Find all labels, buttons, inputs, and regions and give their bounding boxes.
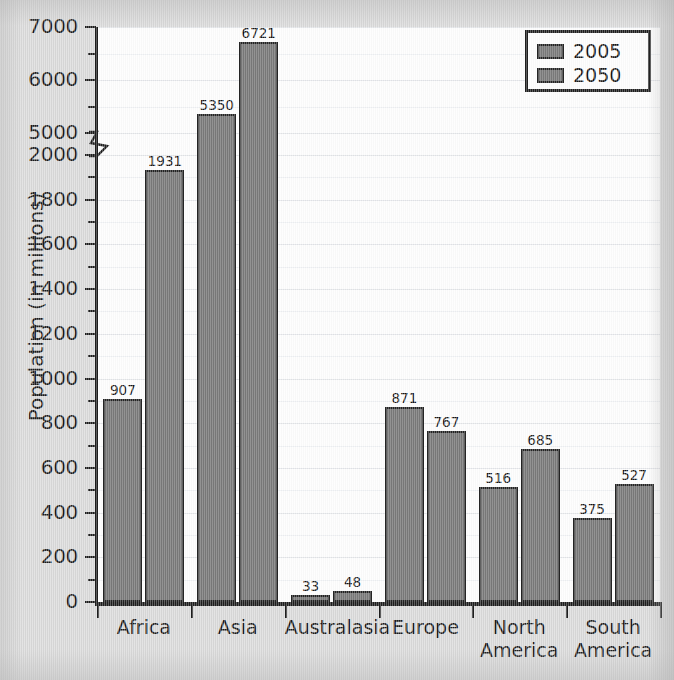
legend-label-2050: 2050 [573,64,621,86]
bar-europe-2050 [427,431,466,602]
y-tick [85,26,96,28]
legend-label-2005: 2005 [573,40,621,62]
bar-north-america-2005 [479,487,518,602]
y-tick-label: 5000 [0,120,78,144]
y-tick-minor [88,310,96,312]
gridline [97,133,660,134]
y-tick-label: 0 [0,589,78,613]
y-tick [85,556,96,558]
bar-south-america-2050 [615,484,654,602]
y-tick-minor [88,355,96,357]
bar-south-america-2005 [573,518,612,602]
y-tick [85,288,96,290]
category-label-asia: Asia [191,616,285,639]
y-tick [85,79,96,81]
y-tick [85,467,96,469]
y-axis-title: Population (in millions) [24,177,48,437]
y-tick-label: 2000 [0,142,78,166]
chart-legend: 2005 2050 [525,30,651,92]
y-tick-minor [88,400,96,402]
category-label-australasia: Australasia [285,616,379,639]
axis-break-icon [88,130,110,158]
bar-value-label: 6721 [227,25,290,41]
category-label-europe: Europe [379,616,473,639]
bar-australasia-2005 [291,595,330,602]
bar-value-label: 48 [321,574,384,590]
y-tick-label: 600 [0,455,78,479]
category-tick [660,606,662,618]
bar-asia-2005 [197,114,236,602]
gridline-minor [97,107,660,108]
y-tick [85,243,96,245]
category-label-north-america: NorthAmerica [472,616,566,662]
legend-item-2005: 2005 [537,39,648,63]
bar-value-label: 871 [373,390,436,406]
bar-value-label: 1931 [133,153,196,169]
y-tick-minor [88,221,96,223]
y-tick-minor [88,489,96,491]
bar-value-label: 527 [603,467,666,483]
category-label-south-america: SouthAmerica [566,616,660,662]
bar-north-america-2050 [521,449,560,602]
y-tick-minor [88,266,96,268]
y-tick [85,333,96,335]
y-tick [85,512,96,514]
bar-australasia-2050 [333,591,372,602]
y-tick-label: 400 [0,500,78,524]
legend-swatch-2050 [537,68,564,83]
y-tick-minor [88,53,96,55]
bar-value-label: 685 [509,432,572,448]
y-tick-minor [88,579,96,581]
y-tick [85,422,96,424]
y-axis-line [95,27,98,604]
bar-europe-2005 [385,407,424,602]
bar-africa-2050 [145,170,184,602]
category-label-africa: Africa [97,616,191,639]
y-tick [85,378,96,380]
gridline [97,27,660,28]
category-tick [97,606,99,618]
y-tick-minor [88,106,96,108]
y-tick [85,199,96,201]
bar-asia-2050 [239,42,278,602]
y-tick-minor [88,176,96,178]
y-tick-minor [88,445,96,447]
y-tick [85,601,96,603]
bar-chart: 0200400600800100012001400160018002000500… [0,0,674,680]
bar-africa-2005 [103,399,142,602]
legend-swatch-2005 [537,44,564,59]
y-tick-label: 7000 [0,14,78,38]
bar-value-label: 767 [415,414,478,430]
y-tick-minor [88,534,96,536]
legend-item-2050: 2050 [537,63,648,87]
y-tick-label: 200 [0,544,78,568]
y-tick-label: 6000 [0,67,78,91]
